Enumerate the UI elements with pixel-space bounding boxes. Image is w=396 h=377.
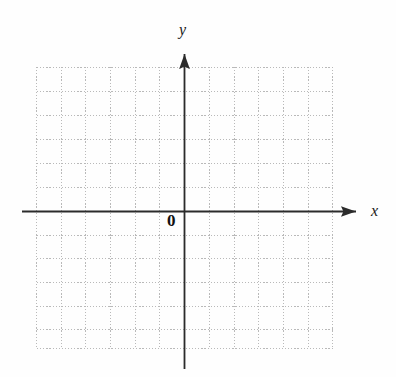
origin-label: 0 bbox=[167, 212, 176, 229]
plot-canvas bbox=[0, 0, 396, 377]
figure-background bbox=[0, 0, 396, 377]
x-axis-label: x bbox=[371, 203, 378, 219]
coordinate-grid-figure: y x 0 bbox=[0, 0, 396, 377]
y-axis-label: y bbox=[179, 22, 186, 38]
